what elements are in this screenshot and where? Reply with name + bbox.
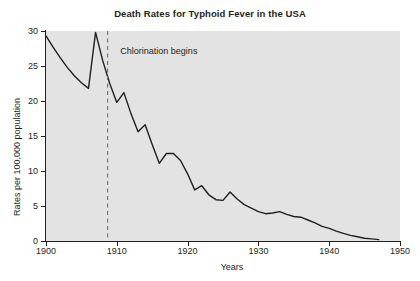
chlorination-begins-annotation-label: Chlorination begins — [120, 46, 197, 56]
y-axis-tick — [41, 66, 45, 67]
plot-area — [46, 31, 400, 241]
plot-svg — [46, 31, 400, 241]
x-axis-tick-label: 1920 — [170, 247, 206, 256]
x-axis-tick-label: 1910 — [99, 247, 135, 256]
x-axis-tick-label: 1940 — [311, 247, 347, 256]
y-axis-tick — [41, 171, 45, 172]
y-axis-tick — [41, 101, 45, 102]
x-axis-tick-label: 1950 — [382, 247, 418, 256]
chart-title: Death Rates for Typhoid Fever in the USA — [0, 8, 420, 19]
chart-figure: Death Rates for Typhoid Fever in the USA… — [0, 0, 420, 281]
x-axis-title: Years — [22, 262, 420, 272]
y-axis-line — [45, 30, 46, 242]
y-axis-tick-label: 0 — [16, 237, 38, 246]
x-axis-tick-label: 1930 — [240, 247, 276, 256]
y-axis-tick — [41, 206, 45, 207]
x-axis-line — [45, 241, 401, 242]
y-axis-tick — [41, 31, 45, 32]
y-axis-title: Rates per 100,000 population — [12, 98, 22, 216]
y-axis-tick — [41, 136, 45, 137]
y-axis-tick-label: 25 — [16, 62, 38, 71]
data-series-line — [46, 32, 379, 239]
y-axis-tick-label: 30 — [16, 27, 38, 36]
y-axis-tick — [41, 241, 45, 242]
x-axis-tick-label: 1900 — [28, 247, 64, 256]
